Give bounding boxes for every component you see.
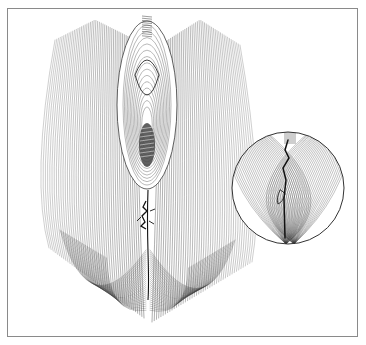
magnified-inset bbox=[222, 132, 354, 244]
anatomical-illustration bbox=[0, 0, 366, 345]
central-opening-detail bbox=[117, 16, 177, 300]
